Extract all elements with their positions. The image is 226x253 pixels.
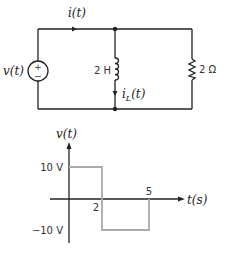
x-tick-2: 2 (93, 202, 99, 213)
circuit-figure: + − v(t) i(t) 2 H iL(t) 2 Ω v(t) t(s) 10… (0, 0, 226, 253)
x-axis-label: t(s) (187, 193, 208, 207)
inductor-label: 2 H (94, 65, 111, 76)
voltage-waveform-chart: v(t) t(s) 10 V −10 V 2 5 (32, 127, 208, 243)
x-axis-arrow-icon (178, 197, 185, 202)
svg-text:−: − (34, 71, 42, 81)
junction-bottom-dot (113, 107, 117, 111)
y-tick-neg10: −10 V (32, 225, 63, 236)
y-axis-arrow-icon (67, 142, 72, 149)
y-tick-10: 10 V (40, 162, 63, 173)
resistor-icon (189, 59, 195, 80)
inductor-current-arrow-icon (113, 91, 118, 96)
junction-top-dot (113, 27, 117, 31)
current-arrow-icon (72, 27, 77, 32)
inductor-icon (115, 58, 119, 80)
current-label: i(t) (68, 6, 86, 20)
circuit-diagram: + − v(t) i(t) 2 H iL(t) 2 Ω (3, 6, 217, 111)
resistor-label: 2 Ω (199, 64, 217, 75)
source-label: v(t) (3, 64, 24, 78)
x-tick-5: 5 (146, 186, 152, 197)
inductor-current-label: iL(t) (122, 87, 146, 103)
y-axis-label: v(t) (56, 127, 77, 141)
voltage-source-icon: + − (28, 61, 48, 81)
